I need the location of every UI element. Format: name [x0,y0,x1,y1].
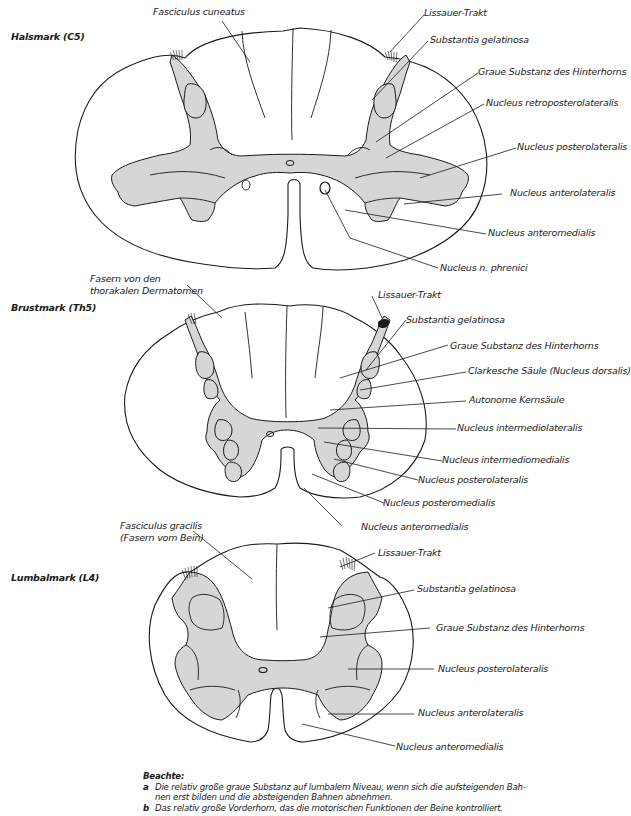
label-substantia-gelatinosa-l4: Substantia gelatinosa [417,583,516,594]
label-nucleus-intermediomedialis: Nucleus intermediomedialis [442,454,569,465]
label-nucleus-phrenici: Nucleus n. phrenici [440,262,527,273]
label-clarkesche-saeule: Clarkesche Säule (Nucleus dorsalis) [468,365,631,376]
label-substantia-gelatinosa-th5: Substantia gelatinosa [406,314,505,325]
label-nucleus-posterolateralis-l4: Nucleus posterolateralis [438,663,548,674]
section-lumbar-l4 [149,531,434,746]
label-lissauer-trakt-l4: Lissauer-Trakt [378,547,441,558]
note-box: Beachte: a Die relativ große graue Subst… [143,771,583,813]
label-fasciculus-gracilis-line1: Fasciculus gracilis [120,520,204,532]
label-graue-substanz-c5: Graue Substanz des Hinterhorns [478,66,626,77]
label-nucleus-anterolateralis-l4: Nucleus anterolateralis [418,707,523,718]
label-fasern-line2: thorakalen Dermatomen [90,285,203,297]
label-nucleus-intermediolateralis: Nucleus intermediolateralis [457,422,582,433]
label-nucleus-anteromedialis-l4: Nucleus anteromedialis [396,741,503,752]
label-substantia-gelatinosa-c5: Substantia gelatinosa [430,34,529,45]
label-autonome-kernsaeule: Autonome Kernsäule [469,394,564,405]
note-item-a-line2: nen erst bilden und die absteigenden Bah… [155,792,392,802]
label-nucleus-anteromedialis-c5: Nucleus anteromedialis [488,227,595,238]
note-item-text: Das relativ große Vorderhorn, das die mo… [155,803,503,814]
label-fasciculus-gracilis: Fasciculus gracilis (Fasern vom Bein) [120,520,204,544]
label-fasciculus-gracilis-line2: (Fasern vom Bein) [120,532,204,544]
label-lissauer-trakt-c5: Lissauer-Trakt [424,7,487,18]
label-nucleus-retroposterolateralis: Nucleus retroposterolateralis [486,97,618,108]
note-item-text: Die relativ große graue Substanz auf lum… [155,782,526,803]
label-nucleus-anteromedialis-th5: Nucleus anteromedialis [361,521,468,532]
note-item-key: a [143,782,155,803]
section-title-thoracic: Brustmark (Th5) [11,302,96,313]
note-item-b: b Das relativ große Vorderhorn, das die … [143,803,583,814]
section-title-lumbar: Lumbalmark (L4) [11,572,99,583]
label-lissauer-trakt-th5: Lissauer-Trakt [378,289,441,300]
note-item-key: b [143,803,155,814]
label-nucleus-anterolateralis-c5: Nucleus anterolateralis [510,187,615,198]
label-graue-substanz-l4: Graue Substanz des Hinterhorns [436,622,584,633]
section-title-cervical: Halsmark (C5) [11,31,85,42]
note-item-a-line1: Die relativ große graue Substanz auf lum… [155,782,526,792]
label-nucleus-posterolateralis-th5: Nucleus posterolateralis [418,474,528,485]
label-graue-substanz-th5: Graue Substanz des Hinterhorns [450,340,598,351]
label-nucleus-posteromedialis: Nucleus posteromedialis [383,497,495,508]
label-nucleus-posterolateralis-c5: Nucleus posterolateralis [517,141,627,152]
note-heading: Beachte: [143,771,583,782]
label-fasern-line1: Fasern von den [90,273,203,285]
label-fasern-dermatomen: Fasern von den thorakalen Dermatomen [90,273,203,297]
section-cervical-c5 [75,15,516,270]
label-fasciculus-cuneatus: Fasciculus cuneatus [153,6,245,17]
note-item-a: a Die relativ große graue Substanz auf l… [143,782,583,803]
